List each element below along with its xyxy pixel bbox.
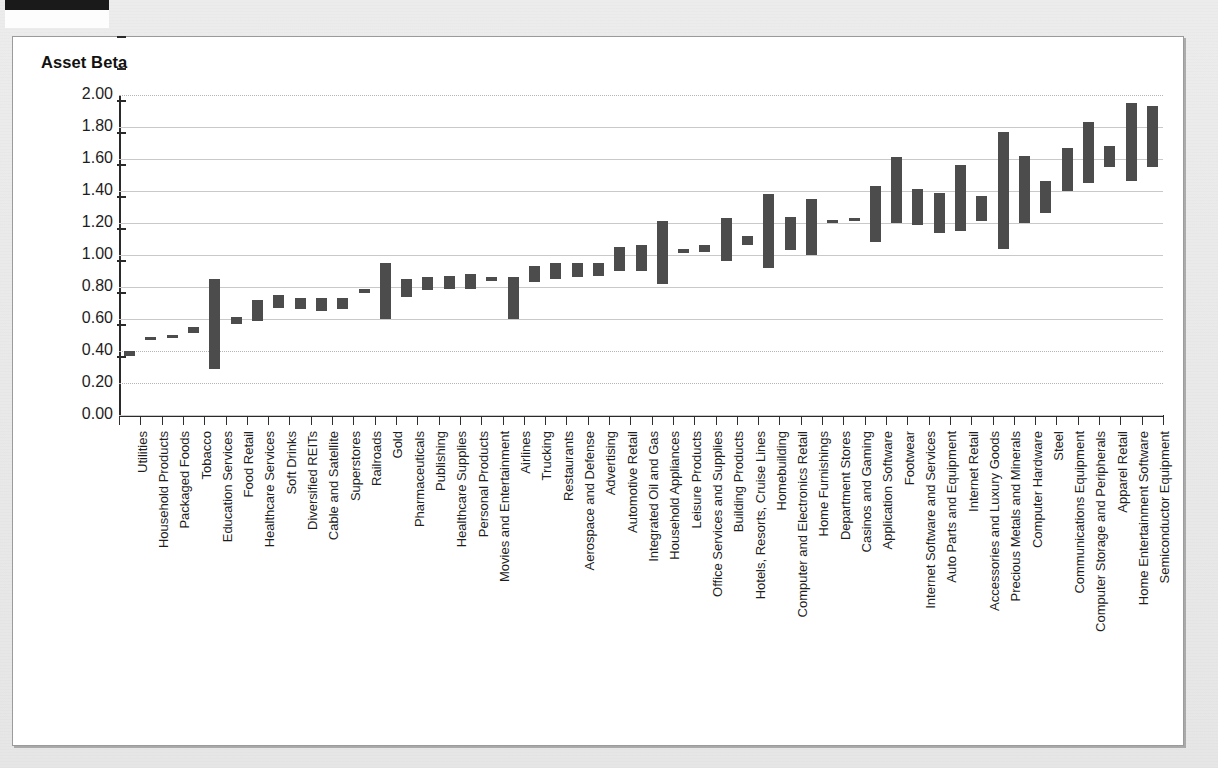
y-axis-tick-label: 0.40	[47, 341, 113, 359]
chart-panel: Asset Beta 2.001.801.601.401.201.000.800…	[12, 36, 1184, 746]
x-axis-tick-label: Internet Software and Services	[923, 431, 938, 609]
x-axis-tick-mark	[588, 417, 589, 425]
x-axis-tick-mark	[609, 417, 610, 425]
x-axis-tick-label: Personal Products	[476, 431, 491, 537]
x-axis-tick-mark	[119, 417, 120, 425]
x-axis-tick-label: Building Products	[731, 431, 746, 532]
gridline	[119, 415, 1163, 416]
x-axis-tick-label: Semiconductor Equipment	[1157, 431, 1172, 583]
x-axis-tick-mark	[524, 417, 525, 425]
y-axis-tick-label: 1.80	[47, 117, 113, 135]
gridline	[119, 383, 1163, 384]
x-axis-tick-mark	[1056, 417, 1057, 425]
bar	[550, 263, 561, 279]
gridline	[119, 351, 1163, 352]
black-marker-bar	[5, 0, 109, 10]
bar	[636, 245, 647, 271]
y-axis-labels: 2.001.801.601.401.201.000.800.600.400.20…	[41, 95, 113, 415]
bar	[486, 277, 497, 280]
x-axis-tick-mark	[630, 417, 631, 425]
y-axis-tick-mark	[117, 324, 126, 326]
y-axis-tick-label: 1.40	[47, 181, 113, 199]
x-axis-tick-mark	[162, 417, 163, 425]
x-axis-tick-mark	[439, 417, 440, 425]
plot-area	[119, 95, 1163, 415]
x-axis-tick-label: Leisure Products	[689, 431, 704, 529]
y-axis-tick-mark	[117, 228, 126, 230]
y-axis-tick-label: 1.20	[47, 213, 113, 231]
x-axis-tick-mark	[822, 417, 823, 425]
page-corner-white-patch	[5, 10, 109, 28]
bar	[1062, 148, 1073, 191]
bar	[572, 263, 583, 277]
x-axis-tick-mark	[460, 417, 461, 425]
x-axis-tick-mark	[481, 417, 482, 425]
y-axis-tick-mark	[117, 68, 126, 70]
y-axis-tick-label: 0.00	[47, 405, 113, 423]
x-axis-tick-label: Steel	[1051, 431, 1066, 461]
x-axis-tick-label: Internet Retail	[966, 431, 981, 512]
x-axis-tick-label: Soft Drinks	[284, 431, 299, 495]
x-axis-tick-mark	[566, 417, 567, 425]
y-axis-tick-label: 1.60	[47, 149, 113, 167]
x-axis-tick-mark	[865, 417, 866, 425]
x-axis-tick-mark	[396, 417, 397, 425]
x-axis-tick-label: Communications Equipment	[1072, 431, 1087, 594]
bar	[1040, 181, 1051, 213]
y-axis-tick-mark	[117, 260, 126, 262]
bar	[593, 263, 604, 276]
x-axis-tick-mark	[993, 417, 994, 425]
x-axis-tick-mark	[886, 417, 887, 425]
x-axis-tick-label: Accessories and Luxury Goods	[987, 431, 1002, 611]
x-axis-tick-mark	[332, 417, 333, 425]
x-axis-tick-label: Publishing	[433, 431, 448, 491]
bar	[955, 165, 966, 231]
gridline	[119, 287, 1163, 288]
gridline	[119, 319, 1163, 320]
x-axis-tick-label: Tobacco	[199, 431, 214, 479]
y-axis-tick-label: 0.80	[47, 277, 113, 295]
x-axis-tick-mark	[694, 417, 695, 425]
x-axis-tick-label: Office Services and Supplies	[710, 431, 725, 597]
y-axis-tick-mark	[117, 292, 126, 294]
y-axis-tick-label: 2.00	[47, 85, 113, 103]
x-axis-tick-mark	[779, 417, 780, 425]
bar	[678, 249, 689, 254]
y-axis-tick-label: 1.00	[47, 245, 113, 263]
x-axis-tick-label: Education Services	[220, 431, 235, 542]
x-axis-tick-label: Household Appliances	[667, 431, 682, 560]
x-axis-tick-label: Restaurants	[561, 431, 576, 501]
x-axis-tick-mark	[204, 417, 205, 425]
x-axis-tick-label: Footwear	[902, 431, 917, 485]
x-axis-tick-label: Railroads	[369, 431, 384, 486]
x-axis-tick-mark	[545, 417, 546, 425]
x-axis-tick-mark	[503, 417, 504, 425]
bar	[1126, 103, 1137, 181]
x-axis-tick-label: Healthcare Supplies	[454, 431, 469, 547]
gridline	[119, 95, 1163, 96]
bar	[721, 218, 732, 261]
bar	[976, 196, 987, 222]
bar	[614, 247, 625, 271]
bar	[912, 189, 923, 224]
x-axis-tick-label: Hotels, Resorts, Cruise Lines	[753, 431, 768, 599]
bar	[231, 317, 242, 323]
x-axis-tick-mark	[289, 417, 290, 425]
x-axis-tick-label: Advertising	[603, 431, 618, 495]
x-axis-tick-mark	[1120, 417, 1121, 425]
x-axis-tick-mark	[183, 417, 184, 425]
x-axis-tick-mark	[226, 417, 227, 425]
x-axis-tick-label: Home Furnishings	[816, 431, 831, 537]
x-axis-tick-label: Cable and Satellite	[326, 431, 341, 540]
y-axis-tick-mark	[117, 100, 126, 102]
bar	[188, 327, 199, 333]
y-axis-tick-mark	[117, 164, 126, 166]
x-axis-tick-label: Computer Storage and Peripherals	[1093, 431, 1108, 632]
x-axis-tick-mark	[801, 417, 802, 425]
y-axis-tick-mark	[117, 132, 126, 134]
y-axis-tick-mark	[117, 196, 126, 198]
x-axis-tick-mark	[375, 417, 376, 425]
x-axis-tick-label: Apparel Retail	[1115, 431, 1130, 513]
bar	[444, 276, 455, 289]
bar	[891, 157, 902, 223]
